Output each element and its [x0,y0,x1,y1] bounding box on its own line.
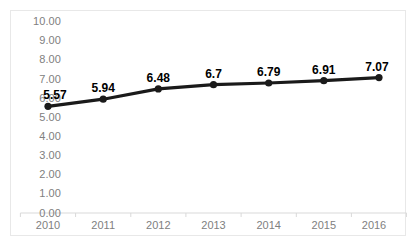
data-label-2010: 5.57 [43,89,66,101]
data-label-2011: 5.94 [92,82,115,94]
data-label-2014: 6.79 [257,66,280,78]
data-label-2013: 6.7 [205,68,222,80]
data-label-2012: 6.48 [147,72,170,84]
data-label-group: 5.57 5.94 6.48 6.7 6.79 6.91 7.07 [11,11,405,235]
chart-frame: 10.00 9.00 8.00 7.00 6.00 5.00 4.00 3.00… [10,10,406,236]
data-label-2015: 6.91 [312,64,335,76]
data-label-2016: 7.07 [365,61,388,73]
chart-plot-area: 10.00 9.00 8.00 7.00 6.00 5.00 4.00 3.00… [11,11,405,235]
